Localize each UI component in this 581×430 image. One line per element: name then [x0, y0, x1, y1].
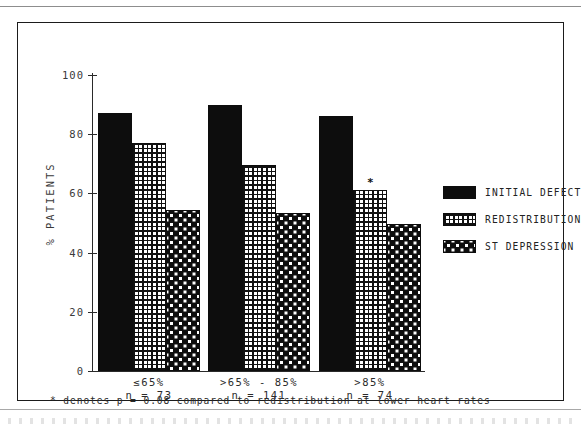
figure-page: 100806040200 % PATIENTS * ≤65%n = 73>65%…: [0, 0, 581, 430]
bar: [208, 105, 242, 371]
x-axis-group-label: >85%: [290, 376, 450, 388]
legend-item: INITIAL DEFECT: [443, 185, 581, 200]
bar: [166, 210, 200, 371]
bar: [387, 224, 421, 371]
legend-swatch: [443, 186, 476, 199]
bar: [276, 213, 310, 371]
significance-asterisk: *: [367, 179, 374, 187]
legend-label: INITIAL DEFECT: [485, 187, 581, 198]
legend-swatch: [443, 240, 476, 253]
figure-border-box: 100806040200 % PATIENTS * ≤65%n = 73>65%…: [17, 22, 564, 401]
scan-rule-top: [0, 6, 581, 7]
scan-rule-bottom: [0, 409, 581, 410]
legend-label: REDISTRIBUTION: [485, 214, 581, 225]
bar: [242, 165, 276, 371]
legend-item: REDISTRIBUTION: [443, 212, 581, 227]
legend-item: ST DEPRESSION: [443, 239, 574, 254]
footnote: * denotes p = 0.08 compared to redistrib…: [50, 395, 491, 406]
bar: [98, 113, 132, 371]
bar: [319, 116, 353, 371]
legend-swatch: [443, 213, 476, 226]
scan-artifact-caption: [8, 418, 573, 424]
bar: [353, 190, 387, 371]
legend-label: ST DEPRESSION: [485, 241, 574, 252]
bar: [132, 143, 166, 371]
